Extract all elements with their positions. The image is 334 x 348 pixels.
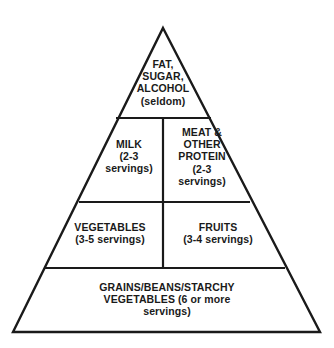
food-pyramid-figure: FAT, SUGAR, ALCOHOL (seldom) MILK (2-3 s… bbox=[0, 0, 334, 348]
pyramid-outline-graphic bbox=[0, 0, 334, 348]
pyramid-outline bbox=[13, 28, 320, 332]
